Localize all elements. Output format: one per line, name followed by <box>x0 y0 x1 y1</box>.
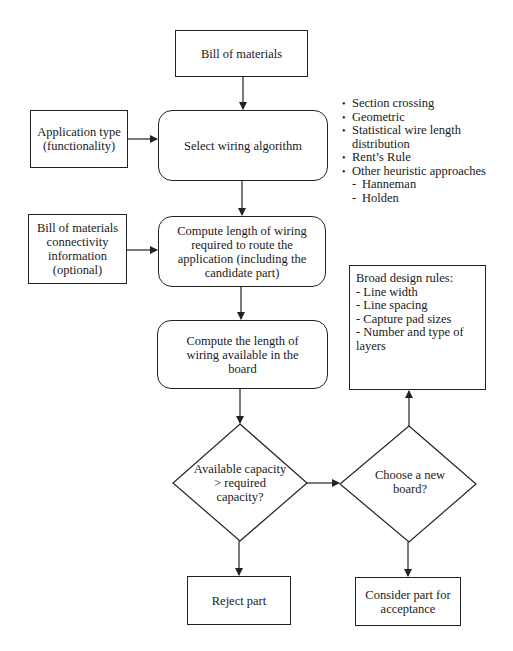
decision-capacity-line: required <box>224 476 266 490</box>
compute-required-line: application (including the <box>177 252 307 266</box>
consider-part-box: Consider part for acceptance <box>355 577 461 626</box>
decision-new-board-line: Choose a new <box>375 468 445 482</box>
decision-capacity-label: Available capacity > required capacity? <box>190 448 290 518</box>
bom-connectivity-line: (optional) <box>37 263 118 277</box>
reject-part-label: Reject part <box>212 594 267 608</box>
compute-available-line: board <box>186 362 298 376</box>
application-type-line-1: Application type <box>37 125 121 139</box>
compute-required-line: required to route the <box>177 238 307 252</box>
consider-part-line: acceptance <box>365 602 450 616</box>
compute-available-line: wiring available in the <box>186 348 298 362</box>
bom-connectivity-line: connectivity <box>37 235 118 249</box>
algorithm-item: Other heuristic approaches <box>342 165 512 179</box>
algorithm-item: Statistical wire length <box>342 124 512 138</box>
decision-new-board-label: Choose a new board? <box>360 464 460 500</box>
design-rules-title: Broad design rules: <box>356 272 481 286</box>
bom-connectivity-line: Bill of materials <box>37 221 118 235</box>
bom-connectivity-line: information <box>37 249 118 263</box>
compute-required-line: Compute length of wiring <box>177 224 307 238</box>
consider-part-line: Consider part for <box>365 588 450 602</box>
algorithm-item: Geometric <box>342 111 512 125</box>
design-rule-item: - Capture pad sizes <box>356 313 481 327</box>
design-rule-item: - Number and type of <box>356 326 481 340</box>
select-wiring-algorithm-label: Select wiring algorithm <box>184 139 302 153</box>
algorithm-item-continuation: distribution <box>342 138 512 152</box>
application-type-box: Application type (functionality) <box>30 110 128 168</box>
algorithm-sub-item: Holden <box>342 192 512 206</box>
bom-connectivity-box: Bill of materials connectivity informati… <box>28 214 127 284</box>
decision-capacity-line: capacity? <box>216 490 263 504</box>
design-rule-item: - Line width <box>356 286 481 300</box>
application-type-line-2: (functionality) <box>37 139 121 153</box>
select-wiring-algorithm-box: Select wiring algorithm <box>158 110 328 181</box>
bill-of-materials-box: Bill of materials <box>175 30 308 77</box>
bill-of-materials-label: Bill of materials <box>201 47 282 61</box>
decision-new-board-line: board? <box>393 482 427 496</box>
algorithm-options-list: Section crossing Geometric Statistical w… <box>342 97 512 205</box>
compute-required-line: candidate part) <box>177 266 307 280</box>
compute-available-length-box: Compute the length of wiring available i… <box>157 320 328 389</box>
compute-required-length-box: Compute length of wiring required to rou… <box>158 216 326 287</box>
algorithm-item: Rent’s Rule <box>342 151 512 165</box>
design-rule-item: - Line spacing <box>356 299 481 313</box>
design-rules-box: Broad design rules: - Line width - Line … <box>349 265 486 390</box>
algorithm-item: Section crossing <box>342 97 512 111</box>
design-rule-item: layers <box>356 340 481 354</box>
algorithm-sub-item: Hanneman <box>342 178 512 192</box>
compute-available-line: Compute the length of <box>186 334 298 348</box>
reject-part-box: Reject part <box>187 576 291 625</box>
decision-capacity-line: Available <box>194 462 242 476</box>
